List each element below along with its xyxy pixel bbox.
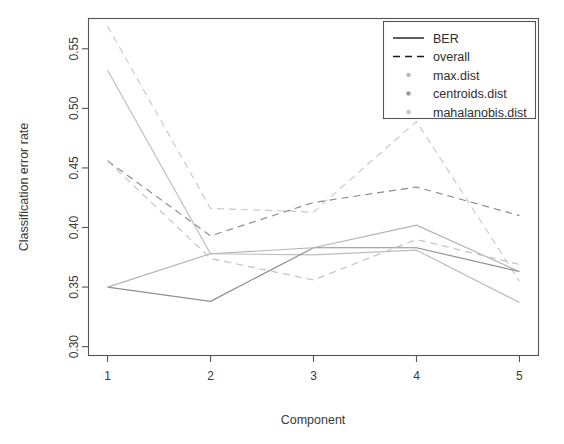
series-line (108, 161, 520, 236)
y-axis-title: Classification error rate (17, 123, 31, 252)
series-line (108, 225, 520, 287)
x-tick-label: 4 (413, 369, 420, 383)
chart-legend: BERoverallmax.distcentroids.distmahalano… (384, 22, 536, 120)
chart-figure: 0.300.350.400.450.500.55 12345 Component… (0, 0, 564, 444)
y-tick-label: 0.55 (67, 37, 81, 61)
y-tick-label: 0.45 (67, 156, 81, 180)
y-tick-label: 0.30 (67, 335, 81, 359)
series-line (108, 161, 520, 280)
legend-label: overall (433, 50, 470, 64)
legend-label: centroids.dist (433, 87, 507, 101)
legend-swatch-dot (406, 91, 410, 95)
x-tick-label: 3 (310, 369, 317, 383)
series-line (108, 248, 520, 302)
y-tick-label: 0.35 (67, 275, 81, 299)
line-chart: 0.300.350.400.450.500.55 12345 Component… (0, 0, 564, 444)
x-tick-label: 5 (516, 369, 523, 383)
y-tick-label: 0.40 (67, 216, 81, 240)
x-axis-title: Component (281, 413, 346, 427)
x-tick-label: 1 (104, 369, 111, 383)
legend-label: mahalanobis.dist (433, 106, 527, 120)
y-axis-ticks: 0.300.350.400.450.500.55 (67, 37, 89, 359)
y-tick-label: 0.50 (67, 96, 81, 120)
legend-label: BER (433, 32, 459, 46)
x-tick-label: 2 (207, 369, 214, 383)
legend-label: max.dist (433, 69, 480, 83)
legend-swatch-dot (406, 110, 410, 114)
x-axis-ticks: 12345 (104, 355, 523, 383)
legend-swatch-dot (406, 73, 410, 77)
